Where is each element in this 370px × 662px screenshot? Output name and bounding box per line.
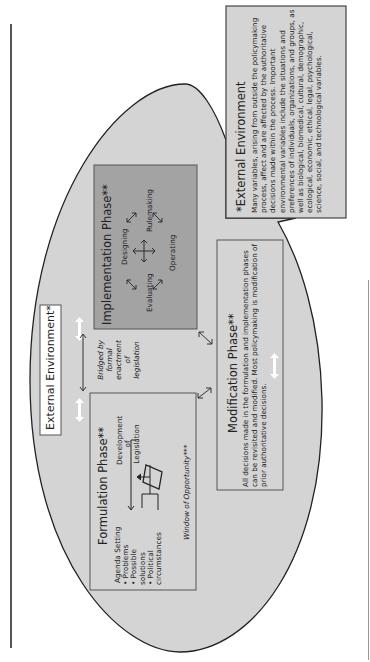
modification-body: All decisions made in the formulation an… [241, 242, 269, 487]
external-note-body: Many variables, arising from outside the… [250, 8, 324, 213]
activity-rulemaking: Rulemaking [145, 189, 154, 232]
bridge-line: legislation [132, 335, 141, 385]
formulation-bullets: • Problems • Possible solutions • Politi… [122, 535, 163, 585]
bullet-political: • Political circumstances [147, 535, 164, 585]
activity-evaluating: Evaluating [145, 273, 154, 312]
modification-title: Modification Phase** [226, 313, 240, 433]
bridge-line: formal [105, 335, 114, 385]
development-label: Development of Legislation [116, 423, 141, 465]
bullet-solutions: • Possible solutions [130, 545, 147, 585]
formulation-title: Formulation Phase** [96, 427, 110, 545]
bridge-line: Bridged by [96, 335, 105, 385]
activity-designing: Designing [120, 229, 129, 265]
external-note-title: *External Environment [234, 81, 248, 212]
implementation-title: Implementation Phase** [100, 184, 114, 325]
activity-operating: Operating [168, 235, 177, 271]
window-of-opportunity: Window of Opportunity*** [182, 445, 191, 540]
development-line: Legislation [133, 423, 141, 465]
external-environment-label: External Environment* [44, 305, 57, 430]
bridge-line: of [123, 335, 132, 385]
bridge-line: enactment [114, 335, 123, 385]
bridge-text: Bridged by formal enactment of legislati… [96, 335, 141, 385]
